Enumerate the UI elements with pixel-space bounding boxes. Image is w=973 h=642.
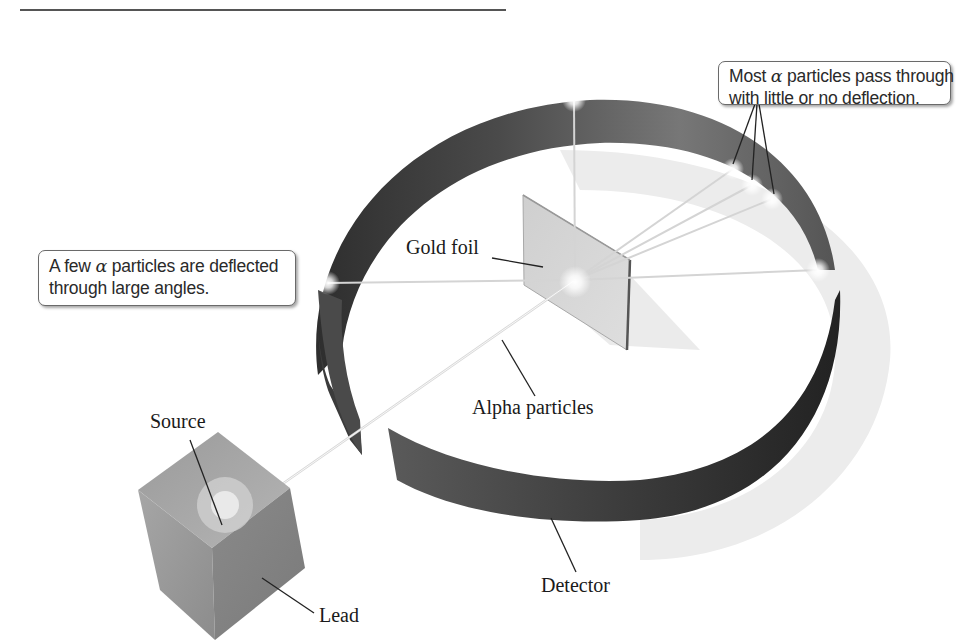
lead-block — [138, 432, 305, 640]
label-lead: Lead — [319, 604, 359, 627]
callout-most-line1: Most α particles pass through — [729, 65, 940, 87]
label-source: Source — [150, 410, 206, 433]
callout-few-line1: A few α particles are deflected — [49, 255, 285, 277]
callout-few-line2: through large angles. — [49, 277, 285, 299]
label-detector: Detector — [541, 574, 610, 597]
label-alpha-particles: Alpha particles — [472, 396, 594, 419]
callout-most-particles: Most α particles pass through with littl… — [718, 61, 951, 105]
callout-few-particles: A few α particles are deflected through … — [38, 250, 296, 306]
label-gold-foil: Gold foil — [406, 236, 479, 259]
callout-most-line2: with little or no deflection. — [729, 87, 940, 109]
